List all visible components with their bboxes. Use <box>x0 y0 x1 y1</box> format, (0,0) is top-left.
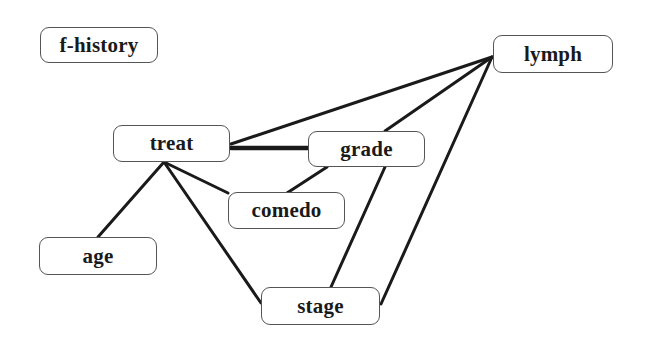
node-age[interactable]: age <box>39 237 157 275</box>
node-label: comedo <box>251 198 321 223</box>
node-grade[interactable]: grade <box>308 131 425 167</box>
edge-treat-stage <box>164 162 261 303</box>
node-stage[interactable]: stage <box>261 287 380 325</box>
node-treat[interactable]: treat <box>113 125 230 162</box>
node-label: grade <box>340 137 392 162</box>
node-label: age <box>83 244 114 269</box>
node-f-history[interactable]: f-history <box>40 27 158 63</box>
edge-treat-age <box>98 162 164 237</box>
edge-comedo-grade <box>287 167 327 193</box>
node-lymph[interactable]: lymph <box>493 35 613 73</box>
node-label: lymph <box>524 42 582 67</box>
node-label: treat <box>150 131 194 156</box>
node-label: f-history <box>60 33 139 58</box>
node-comedo[interactable]: comedo <box>228 192 345 229</box>
node-label: stage <box>297 294 344 319</box>
graph-canvas: f-history lymph treat grade comedo age s… <box>0 0 646 350</box>
